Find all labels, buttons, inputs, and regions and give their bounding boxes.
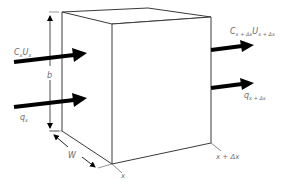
outflow-diffusive-arrow [211,78,254,90]
inflow-advective-label: CxUx [14,48,31,58]
left-face-edge [62,12,112,164]
front-face [112,17,211,164]
x-dx-tick [211,143,221,151]
control-volume-diagram: CxUx qx Cx + ΔxUx + Δx qx + Δx b W x x +… [0,0,286,189]
box [62,8,211,164]
height-label: b [47,71,52,80]
x-start-label: x [120,172,126,180]
inflow-diffusive-label: qx [20,113,28,123]
inflow-diffusive-arrow [14,93,87,107]
outflow-advective-label: Cx + ΔxUx + Δx [230,27,275,37]
outflow-advective-arrow [211,40,254,52]
width-dimension [50,131,112,168]
outflow-diffusive-label: qx + Δx [244,91,266,101]
x-end-label: x + Δx [215,153,240,161]
width-label: W [68,151,77,160]
